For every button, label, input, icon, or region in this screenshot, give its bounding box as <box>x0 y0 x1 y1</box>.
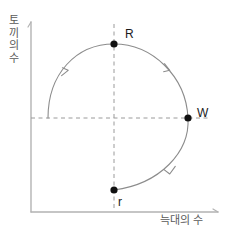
points-group <box>110 40 191 193</box>
direction-arrows-group <box>62 64 176 175</box>
point-W <box>184 114 191 121</box>
x-axis-label: 늑대의 수 <box>160 214 203 227</box>
trajectory-group <box>48 44 188 190</box>
point-label-W: W <box>197 107 208 120</box>
trajectory-curve <box>48 44 188 190</box>
arrow-lower-right-icon <box>164 166 176 175</box>
phase-portrait-figure: 토끼의 수 늑대의 수 R W r <box>0 0 229 234</box>
point-r <box>110 186 117 193</box>
point-R <box>110 40 117 47</box>
y-axis-label: 토끼의 수 <box>6 14 22 64</box>
guide-lines-group <box>31 24 211 211</box>
plot-canvas <box>0 0 229 234</box>
point-label-R: R <box>125 28 134 41</box>
point-label-r: r <box>118 196 122 209</box>
